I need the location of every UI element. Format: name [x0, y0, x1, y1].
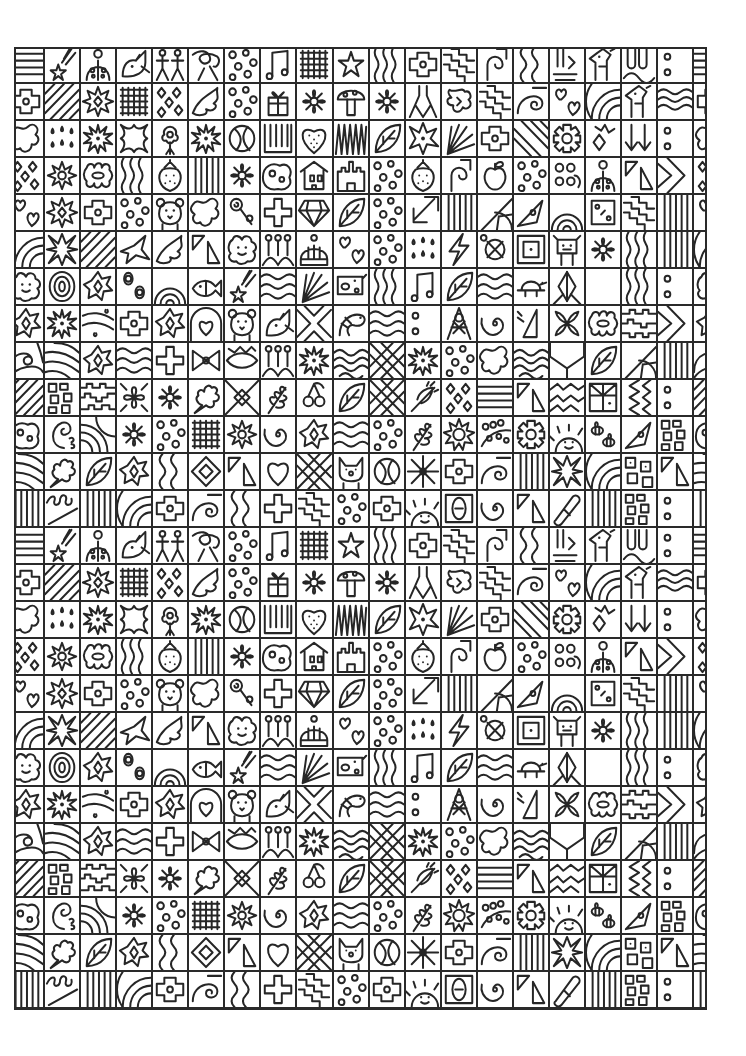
doodle-cell-vlines: [81, 972, 117, 1009]
flowers-icon: [117, 750, 151, 785]
doodle-cell-bolt: [442, 232, 478, 269]
house-icon: [297, 639, 331, 674]
doodle-cell-flower-face: [14, 750, 45, 787]
hlines-icon: [694, 47, 707, 82]
puzzle-icon: [14, 84, 43, 119]
zero-icon: [442, 972, 476, 1007]
pill-icon: [550, 491, 584, 526]
castle-icon: [334, 158, 368, 193]
doodle-cell-envelope: [586, 750, 622, 787]
vlines-icon: [514, 454, 548, 489]
diamonds-icon: [153, 565, 187, 600]
diamonds-icon: [442, 380, 476, 415]
doodle-cell-gear: [514, 898, 550, 935]
swirl-icon: [514, 84, 548, 119]
starburst-icon: [81, 602, 115, 637]
flower-icon: [297, 565, 331, 600]
vlines-icon: [14, 491, 43, 526]
circles-icon: [334, 972, 368, 1007]
music-notes-icon: [406, 269, 440, 304]
bear-icon: [225, 787, 259, 822]
flower-star-icon: [45, 158, 79, 193]
flower-icon: [153, 861, 187, 896]
doodle-cell-square-in: [514, 713, 550, 750]
doodle-cell-pill: [550, 972, 586, 1009]
leaf-icon: [370, 602, 404, 637]
rainbow-icon: [550, 195, 584, 230]
vlines-icon: [514, 935, 548, 970]
shrimp-icon: [334, 306, 368, 341]
vlines-icon: [81, 491, 115, 526]
doodle-cell-fan: [297, 750, 333, 787]
tower-icon: [442, 306, 476, 341]
star-diamond-icon: [153, 787, 187, 822]
doodle-cell-sun-face: [550, 898, 586, 935]
wave-icon: [694, 824, 707, 859]
puzzle-icon: [406, 47, 440, 82]
doodle-cell-waves-h: [478, 269, 514, 306]
star-diamond-icon: [81, 343, 115, 378]
doodle-cell-shrimp: [334, 306, 370, 343]
doodle-cell-square-dots: [586, 676, 622, 713]
spiral-hook-icon: [478, 47, 512, 82]
star-x-icon: [45, 713, 79, 748]
doodle-cell-oak-leaf: [189, 861, 225, 898]
doodle-cell-flower-face: [14, 269, 45, 306]
arcs-icon: [117, 491, 151, 526]
doodle-cell-star-diamond: [81, 824, 117, 861]
doodle-cell-diamond-leaf: [550, 750, 586, 787]
doodle-cell-wavy-v: [370, 750, 406, 787]
zigzag-icon: [478, 565, 512, 600]
ladybug-icon: [81, 528, 115, 563]
doodle-cell-tube: [550, 1009, 586, 1010]
doodle-cell-waves-v: [153, 454, 189, 491]
triangles-icon: [514, 380, 548, 415]
doodle-cell-diagonals: [694, 380, 707, 417]
doodle-cell-grid: [189, 417, 225, 454]
doodle-cell-music-notes: [261, 47, 297, 84]
doodle-cell-leaf: [370, 121, 406, 158]
circle-x-icon: [478, 713, 512, 748]
arcs-icon: [586, 935, 620, 970]
doodle-cell-figures: [153, 528, 189, 565]
doodle-cell-lattice: [297, 935, 333, 972]
puzzle-icon: [370, 972, 404, 1007]
doodle-cell-zigzag: [442, 1009, 478, 1010]
zero-icon: [442, 491, 476, 526]
doodle-cell-dotted-loop: [478, 898, 514, 935]
doodle-cell-blocks: [658, 898, 694, 935]
doodle-cell-hlines: [14, 1009, 45, 1010]
wave-icon: [694, 343, 707, 378]
bear-icon: [225, 306, 259, 341]
flower-oval-icon: [586, 787, 620, 822]
chevron-icon: [658, 306, 692, 341]
grid-icon: [297, 1009, 331, 1010]
wavy-v-icon: [370, 269, 404, 304]
doodle-cell-u-shapes: [622, 1009, 658, 1010]
sun-star-icon: [45, 676, 79, 711]
cross-icon: [261, 972, 295, 1007]
star-icon: [334, 1009, 368, 1010]
doodle-cell-giraffe: [586, 1009, 622, 1010]
doodle-cell-spiral: [261, 417, 297, 454]
beanie-icon: [297, 713, 331, 748]
scales-icon: [334, 343, 368, 378]
doodle-cell-lattice: [297, 454, 333, 491]
doodle-cell-apple: [478, 158, 514, 195]
doodle-cell-leaf: [442, 269, 478, 306]
doodle-cell-u-shapes: [622, 47, 658, 84]
cross-icon: [153, 824, 187, 859]
blob-icon: [694, 121, 707, 156]
doodle-cell-leaf: [442, 750, 478, 787]
lattice-icon: [370, 343, 404, 378]
bolt-icon: [442, 713, 476, 748]
doodle-cell-pig: [334, 750, 370, 787]
comb-icon: [261, 602, 295, 637]
star-diamond-icon: [81, 750, 115, 785]
wavy-v-icon: [370, 750, 404, 785]
doodle-cell-star-diamond: [81, 750, 117, 787]
doodle-cell-hearts: [694, 676, 707, 713]
drops-icon: [45, 602, 79, 637]
bird-icon: [261, 306, 295, 341]
triangles-icon: [514, 972, 548, 1007]
